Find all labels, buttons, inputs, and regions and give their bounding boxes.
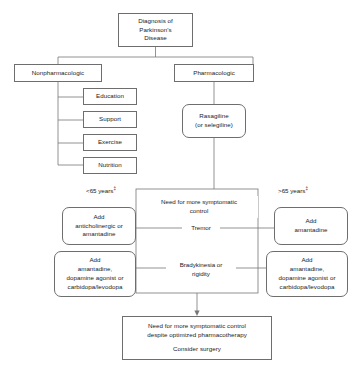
node-rasagiline: Rasagiline (or selegiline)	[182, 104, 246, 138]
label-need-more-control-line-2: control	[190, 207, 209, 216]
node-diagnosis-line-3: Disease	[144, 34, 167, 43]
node-consider-surgery: Need for more symptomatic control despit…	[122, 316, 272, 360]
node-pharmacologic: Pharmacologic	[174, 64, 254, 82]
label-bradykinesia-line-1: Bradykinesia or	[180, 261, 223, 270]
node-add-amantadine-combo-right: Add amantadine, dopamine agonist or carb…	[266, 251, 348, 297]
node-diagnosis-line-2: Parkinson's	[139, 26, 171, 35]
node-nonpharmacologic-label: Nonpharmacologic	[32, 69, 84, 78]
node-rasagiline-line-2: (or selegiline)	[195, 121, 233, 130]
node-exercise: Exercise	[83, 134, 137, 151]
label-age-over-65: >65 years‡	[258, 186, 328, 196]
node-add-amantadine-combo-left: Add amantadine, dopamine agonist or carb…	[54, 251, 136, 297]
node-nonpharmacologic: Nonpharmacologic	[14, 64, 102, 82]
label-need-more-control-line-1: Need for more symptomatic	[161, 198, 237, 207]
node-add-amantadine-combo-left-line-4: carbidopa/levodopa	[68, 283, 123, 292]
node-pharmacologic-label: Pharmacologic	[193, 69, 235, 78]
node-education: Education	[83, 88, 137, 105]
node-education-label: Education	[96, 92, 124, 101]
label-age-under-65: <65 years‡	[66, 186, 136, 196]
node-rasagiline-line-1: Rasagiline	[199, 112, 228, 121]
node-add-amantadine-combo-right-line-3: dopamine agonist or	[278, 274, 335, 283]
node-consider-surgery-line-2: despite optimized pharmacotherapy	[147, 331, 247, 340]
node-add-amantadine-combo-left-line-3: dopamine agonist or	[66, 274, 123, 283]
node-consider-surgery-line-1: Need for more symptomatic control	[148, 322, 246, 331]
node-add-anticholinergic-line-3: amantadine	[83, 230, 116, 239]
label-bradykinesia: Bradykinesia or rigidity	[166, 260, 236, 280]
node-add-anticholinergic-line-1: Add	[93, 213, 104, 222]
node-support-label: Support	[99, 115, 121, 124]
node-support: Support	[83, 111, 137, 128]
node-add-amantadine-line-2: amantadine	[295, 226, 328, 235]
node-add-anticholinergic-line-2: anticholinergic or	[75, 222, 123, 231]
node-add-anticholinergic: Add anticholinergic or amantadine	[62, 207, 136, 245]
node-add-amantadine-combo-left-line-1: Add	[89, 256, 100, 265]
node-diagnosis-line-1: Diagnosis of	[138, 17, 173, 26]
node-add-amantadine-line-1: Add	[305, 217, 316, 226]
node-nutrition: Nutrition	[83, 157, 137, 174]
node-add-amantadine-combo-right-line-2: amantadine,	[290, 265, 325, 274]
label-age-under-65-text: <65 years	[86, 187, 113, 194]
node-add-amantadine-combo-right-line-1: Add	[301, 256, 312, 265]
label-bradykinesia-line-2: rigidity	[192, 270, 210, 279]
node-nutrition-label: Nutrition	[98, 161, 122, 170]
node-consider-surgery-line-4: Consider surgery	[173, 345, 221, 354]
label-age-under-65-footnote: ‡	[113, 186, 116, 191]
label-tremor-text: Tremor	[191, 224, 211, 233]
label-need-more-control: Need for more symptomatic control	[140, 196, 258, 218]
label-tremor: Tremor	[182, 222, 220, 234]
node-exercise-label: Exercise	[98, 138, 122, 147]
parkinsons-treatment-flowchart: Diagnosis of Parkinson's Disease Nonphar…	[0, 0, 358, 377]
node-add-amantadine-combo-right-line-4: carbidopa/levodopa	[280, 283, 335, 292]
node-add-amantadine: Add amantadine	[274, 207, 348, 245]
node-diagnosis: Diagnosis of Parkinson's Disease	[118, 13, 193, 47]
label-age-over-65-text: >65 years	[278, 187, 305, 194]
label-age-over-65-footnote: ‡	[305, 186, 308, 191]
node-add-amantadine-combo-left-line-2: amantadine,	[78, 265, 113, 274]
